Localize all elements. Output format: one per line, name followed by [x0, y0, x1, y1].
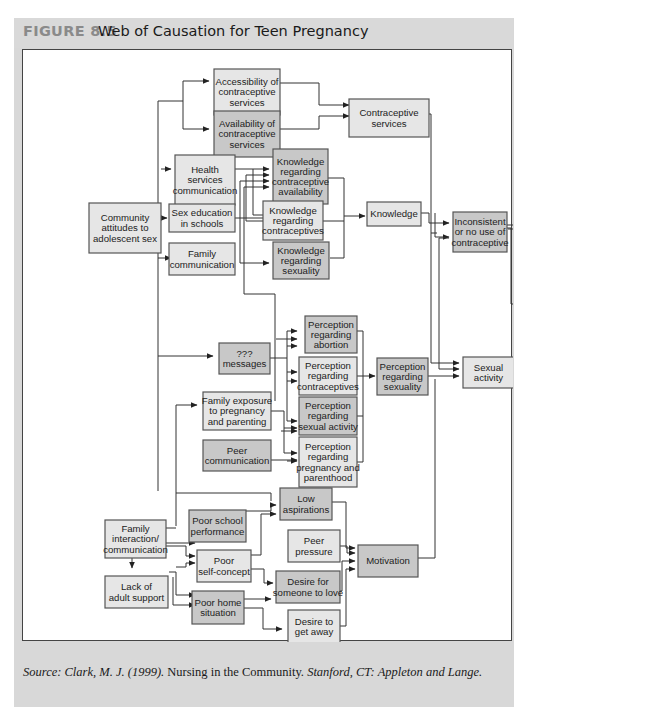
node-label: Motivation	[366, 555, 410, 566]
node-label: contraceptives	[262, 225, 324, 236]
node-label: self-concept	[198, 566, 250, 577]
node-perc-abortion: Perceptionregardingabortion	[305, 316, 357, 353]
diagram-frame: Communityattitudes toadolescent sexAcces…	[22, 49, 512, 641]
node-know-avail: Knowledgeregardingcontraceptiveavailabil…	[272, 149, 329, 204]
node-perc-sexuality: Perceptionregardingsexuality	[377, 358, 428, 395]
node-label: contraceptive	[451, 237, 508, 248]
node-label: someone to love	[273, 587, 343, 598]
node-label: communication	[205, 455, 270, 466]
node-motivation: Motivation	[358, 545, 418, 577]
node-label: abortion	[314, 339, 349, 350]
node-label: and parenting	[208, 416, 267, 427]
node-perc-contra: Perceptionregardingcontraceptives	[297, 357, 359, 395]
node-know-contra: Knowledgeregardingcontraceptives	[262, 201, 324, 240]
node-know-sex: Knowledgeregardingsexuality	[273, 242, 329, 279]
figure-title: Web of Causation for Teen Pregnancy	[98, 23, 369, 39]
node-label: Knowledge	[370, 208, 417, 219]
node-desire-love: Desire forsomeone to love	[273, 571, 343, 603]
node-label: communication	[170, 259, 235, 270]
node-family-comm: Familycommunication	[169, 243, 235, 275]
node-sexual-activity: Sexualactivity	[463, 357, 513, 388]
node-peer-comm: Peercommunication	[203, 440, 271, 471]
node-label: communication	[103, 544, 168, 555]
node-poor-school: Poor schoolperformance	[189, 510, 246, 542]
node-messages: ???messages	[219, 343, 270, 374]
source-publisher: Stanford, CT: Appleton and Lange.	[304, 665, 482, 679]
node-accessibility: Accessibility ofcontraceptiveservices	[214, 69, 280, 115]
node-label: services	[229, 139, 264, 150]
node-family-exposure: Family exposureto pregnancyand parenting	[202, 392, 272, 430]
source-book-title: Nursing in the Community.	[164, 665, 304, 679]
node-inconsistent: Inconsistentor no use ofcontraceptive	[451, 212, 508, 252]
source-citation: Source: Clark, M. J. (1999).	[23, 665, 164, 679]
node-label: availability	[278, 186, 322, 197]
node-label: aspirations	[283, 504, 330, 515]
node-peer-pressure: Peerpressure	[288, 530, 340, 562]
node-label: situation	[200, 607, 236, 618]
node-lack-support: Lack ofadult support	[105, 576, 168, 608]
node-label: messages	[223, 358, 267, 369]
node-label: sexual activity	[298, 421, 358, 432]
node-label: performance	[191, 526, 245, 537]
node-knowledge: Knowledge	[367, 202, 421, 226]
node-label: sexuality	[282, 265, 320, 276]
node-low-aspirations: Lowaspirations	[280, 488, 332, 520]
node-poor-home: Poor homesituation	[192, 591, 244, 624]
web-of-causation-diagram: Communityattitudes toadolescent sexAcces…	[23, 50, 513, 642]
node-label: adolescent sex	[93, 233, 157, 244]
node-perc-preg: Perceptionregardingpregnancy andparentho…	[296, 437, 359, 487]
node-community: Communityattitudes toadolescent sex	[89, 203, 161, 253]
node-label: adult support	[109, 592, 165, 603]
node-contraceptive-services: Contraceptiveservices	[349, 99, 429, 137]
node-label: pressure	[295, 546, 332, 557]
node-family-interaction: Familyinteraction/communication	[103, 520, 168, 558]
node-label: services	[371, 118, 406, 129]
node-label: get away	[295, 626, 334, 637]
node-poor-self: Poorself-concept	[197, 550, 251, 582]
node-perc-sexact: Perceptionregardingsexual activity	[298, 397, 358, 435]
node-label: services	[229, 97, 264, 108]
node-label: communication	[173, 185, 238, 196]
node-label: sexuality	[384, 381, 422, 392]
figure-source: Source: Clark, M. J. (1999). Nursing in …	[23, 665, 482, 680]
node-availability: Availability ofcontraceptiveservices	[214, 111, 280, 157]
node-desire-away: Desire toget away	[288, 610, 340, 642]
node-label: parenthood	[304, 472, 353, 483]
node-sex-education: Sex educationin schools	[169, 204, 235, 232]
diagram-nodes: Communityattitudes toadolescent sexAcces…	[89, 69, 513, 642]
node-health-services: Healthservicescommunication	[173, 155, 238, 205]
node-label: contraceptives	[297, 381, 359, 392]
node-label: activity	[474, 372, 504, 383]
node-label: in schools	[181, 218, 224, 229]
